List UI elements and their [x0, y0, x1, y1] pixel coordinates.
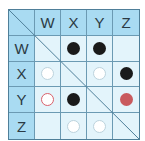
cell-y-y [87, 87, 113, 113]
cell-w-x [61, 36, 87, 62]
relation-matrix: W X Y Z W X Y Z [8, 9, 140, 140]
cell-x-y [87, 62, 113, 88]
cell-w-w [35, 36, 61, 62]
cell-x-w [35, 62, 61, 88]
white-dot-icon [93, 67, 106, 80]
cell-z-w [35, 113, 61, 139]
row-header-y: Y [9, 87, 35, 113]
col-header-y: Y [87, 10, 113, 36]
white-dot-icon [67, 120, 80, 133]
black-dot-icon [67, 93, 80, 106]
row-header-z: Z [9, 113, 35, 139]
cell-y-z [113, 87, 139, 113]
black-dot-icon [93, 42, 106, 55]
black-dot-icon [120, 67, 133, 80]
cell-z-z [113, 113, 139, 139]
col-header-x: X [61, 10, 87, 36]
red-ring-dot-icon [41, 93, 54, 106]
col-header-w: W [35, 10, 61, 36]
cell-x-z [113, 62, 139, 88]
cell-x-x [61, 62, 87, 88]
row-header-w: W [9, 36, 35, 62]
cell-w-z [113, 36, 139, 62]
cell-y-x [61, 87, 87, 113]
red-dot-icon [120, 93, 133, 106]
cell-y-w [35, 87, 61, 113]
cell-z-x [61, 113, 87, 139]
black-dot-icon [67, 42, 80, 55]
cell-z-y [87, 113, 113, 139]
col-header-z: Z [113, 10, 139, 36]
white-dot-icon [41, 67, 54, 80]
corner-cell [9, 10, 35, 36]
row-header-x: X [9, 62, 35, 88]
cell-w-y [87, 36, 113, 62]
white-dot-icon [93, 120, 106, 133]
